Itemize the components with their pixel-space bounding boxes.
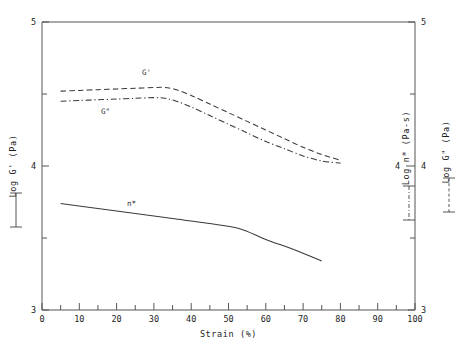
annotation-g-double-prime: G" bbox=[101, 107, 110, 116]
rheology-strain-sweep-chart: 5 4 3 5 4 3 4 bbox=[0, 0, 470, 349]
right-inner-axis-title-group: Log n* (Pa-s) bbox=[401, 111, 415, 220]
chart-figure: 5 4 3 5 4 3 4 bbox=[0, 0, 470, 349]
x-tick-label-20: 20 bbox=[111, 314, 121, 324]
x-tick-label-70: 70 bbox=[298, 314, 308, 324]
right-inner-tick-label-4: 4 bbox=[395, 161, 400, 171]
x-tick-label-80: 80 bbox=[335, 314, 345, 324]
left-tick-label-4: 4 bbox=[31, 161, 36, 171]
x-tick-label-60: 60 bbox=[261, 314, 271, 324]
x-tick-label-30: 30 bbox=[149, 314, 159, 324]
right-outer-axis-title-group: Log G" (Pa) bbox=[441, 121, 455, 212]
left-axis-ticks: 5 4 3 bbox=[31, 17, 49, 315]
bottom-axis-ticks: 0 10 20 30 40 50 60 70 80 90 100 bbox=[39, 303, 422, 324]
x-tick-label-90: 90 bbox=[373, 314, 383, 324]
x-tick-label-100: 100 bbox=[407, 314, 422, 324]
right-outer-tick-label-5: 5 bbox=[421, 17, 426, 27]
right-outer-tick-label-4: 4 bbox=[421, 161, 426, 171]
x-tick-label-50: 50 bbox=[223, 314, 233, 324]
left-axis-title: Log G' (Pa) bbox=[8, 135, 18, 198]
right-inner-axis-title: Log n* (Pa-s) bbox=[401, 111, 411, 185]
x-tick-label-0: 0 bbox=[39, 314, 44, 324]
annotation-g-prime: G' bbox=[142, 68, 151, 77]
series-line-g-prime bbox=[61, 87, 341, 160]
right-outer-axis-title: Log G" (Pa) bbox=[441, 121, 451, 184]
x-tick-label-40: 40 bbox=[186, 314, 196, 324]
plot-frame bbox=[42, 22, 415, 310]
left-axis-title-group: Log G' (Pa) bbox=[8, 135, 22, 227]
left-tick-label-3: 3 bbox=[31, 305, 36, 315]
right-inner-legend-bracket bbox=[403, 186, 415, 220]
left-tick-label-5: 5 bbox=[31, 17, 36, 27]
annotation-eta-star: n* bbox=[127, 199, 136, 208]
x-axis-title: Strain (%) bbox=[200, 329, 257, 339]
x-tick-label-10: 10 bbox=[74, 314, 84, 324]
series-line-eta-star bbox=[61, 203, 322, 261]
